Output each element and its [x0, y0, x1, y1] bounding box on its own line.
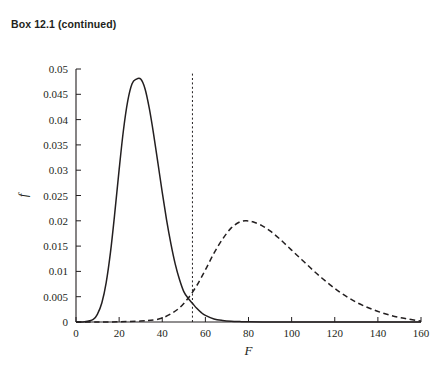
- y-tick-label: 0.02: [49, 215, 68, 227]
- y-tick-label: 0.05: [49, 63, 69, 75]
- x-tick-label: 60: [200, 327, 212, 339]
- y-tick-label: 0.035: [43, 139, 68, 151]
- y-tick-label: 0.03: [49, 164, 69, 176]
- y-tick-label: 0: [63, 316, 69, 328]
- x-tick-label: 40: [157, 327, 169, 339]
- x-tick-label: 80: [243, 327, 255, 339]
- y-axis-tick-labels: 00.0050.010.0150.020.0250.030.0350.040.0…: [43, 63, 68, 328]
- x-axis-title: F: [244, 343, 254, 358]
- x-tick-label: 100: [283, 327, 300, 339]
- alternative-distribution-curve: [76, 221, 421, 322]
- box-caption: Box 12.1 (continued): [11, 18, 116, 30]
- x-tick-label: 120: [327, 327, 344, 339]
- x-tick-label: 140: [370, 327, 387, 339]
- y-axis-tick-marks: [76, 69, 81, 322]
- y-tick-label: 0.005: [43, 291, 68, 303]
- x-axis-tick-labels: 020406080100120140160: [73, 327, 430, 339]
- y-tick-label: 0.01: [49, 265, 68, 277]
- figure-page: Box 12.1 (continued) 00.0050.010.0150.02…: [0, 0, 432, 366]
- y-tick-label: 0.045: [43, 88, 68, 100]
- x-tick-label: 20: [114, 327, 126, 339]
- x-tick-label: 160: [413, 327, 430, 339]
- chart-figure: 00.0050.010.0150.020.0250.030.0350.040.0…: [0, 46, 432, 366]
- distribution-plot: 00.0050.010.0150.020.0250.030.0350.040.0…: [0, 46, 432, 366]
- x-tick-label: 0: [73, 327, 79, 339]
- y-axis-title: f: [15, 191, 30, 197]
- y-tick-label: 0.015: [43, 240, 68, 252]
- y-tick-label: 0.04: [49, 114, 69, 126]
- null-distribution-curve: [76, 78, 421, 322]
- y-tick-label: 0.025: [43, 190, 68, 202]
